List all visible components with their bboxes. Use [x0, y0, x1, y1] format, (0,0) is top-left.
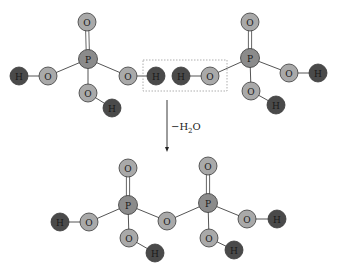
atom-symbol: P — [125, 201, 131, 211]
atom-h: H — [103, 99, 121, 117]
atom-p: P — [199, 194, 218, 213]
atom-symbol: O — [163, 217, 170, 227]
atom-h: H — [268, 210, 286, 228]
atom-symbol: O — [124, 164, 131, 174]
atom-symbol: O — [205, 234, 212, 244]
atom-o: O — [242, 82, 260, 100]
atom-symbol: O — [125, 234, 132, 244]
atom-symbol: O — [247, 87, 254, 97]
atom-h: H — [146, 244, 164, 262]
atom-o: O — [238, 210, 256, 228]
atom-o: O — [79, 84, 97, 102]
atom-h: H — [172, 67, 190, 85]
atom-o: O — [119, 67, 137, 85]
atom-p: P — [119, 196, 138, 215]
atom-o: O — [200, 229, 218, 247]
atom-o: O — [80, 213, 98, 231]
atom-o: O — [39, 67, 57, 85]
atom-symbol: H — [108, 104, 116, 114]
atom-symbol: H — [177, 72, 185, 82]
reaction-condition-label: −H2O — [171, 121, 201, 135]
arrow-head-icon — [165, 147, 169, 152]
atom-symbol: H — [151, 249, 159, 259]
atom-p: P — [79, 50, 98, 69]
reaction-arrow — [165, 100, 169, 152]
atom-o: O — [119, 159, 137, 177]
atom-symbol: P — [205, 199, 211, 209]
atom-symbol: O — [204, 162, 211, 172]
atom-symbol: H — [152, 72, 160, 82]
atom-h: H — [147, 67, 165, 85]
atom-symbol: O — [246, 18, 253, 28]
atom-symbol: O — [84, 89, 91, 99]
atom-symbol: H — [314, 69, 322, 79]
atom-symbol: H — [56, 218, 64, 228]
atom-symbol: O — [124, 72, 131, 82]
atom-h: H — [51, 213, 69, 231]
atom-symbol: O — [285, 69, 292, 79]
atom-symbol: P — [85, 55, 91, 65]
atom-o: O — [158, 212, 176, 230]
atom-p: P — [241, 49, 260, 68]
atom-h: H — [309, 64, 327, 82]
atom-symbol: H — [272, 101, 280, 111]
atom-symbol: O — [206, 72, 213, 82]
atom-symbol: O — [44, 72, 51, 82]
atom-h: H — [10, 67, 28, 85]
diagram-canvas: −H2O OPOHOHOHHOOPOHOHOPOHOHOOPOHOH — [0, 0, 338, 268]
atom-symbol: H — [15, 72, 23, 82]
atom-symbol: O — [83, 18, 90, 28]
atoms-layer: OPOHOHOHHOOPOHOHOPOHOHOOPOHOH — [10, 13, 327, 262]
atom-symbol: O — [243, 215, 250, 225]
atom-o: O — [241, 13, 259, 31]
atom-symbol: O — [85, 218, 92, 228]
reaction-diagram: −H2O OPOHOHOHHOOPOHOHOPOHOHOOPOHOH — [0, 0, 338, 268]
atom-h: H — [267, 96, 285, 114]
atom-symbol: P — [247, 54, 253, 64]
atom-o: O — [199, 157, 217, 175]
atom-o: O — [201, 67, 219, 85]
atom-h: H — [225, 241, 243, 259]
atom-symbol: H — [230, 246, 238, 256]
atom-o: O — [280, 64, 298, 82]
atom-symbol: H — [273, 215, 281, 225]
atom-o: O — [120, 229, 138, 247]
atom-o: O — [78, 13, 96, 31]
